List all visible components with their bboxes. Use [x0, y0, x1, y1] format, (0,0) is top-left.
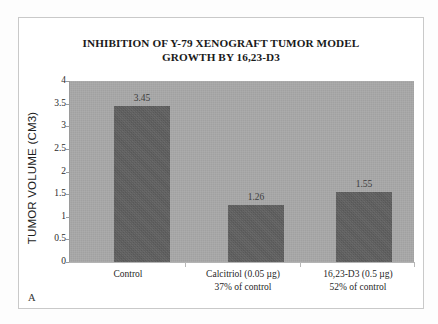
- y-tick-label-3.5: 3.5: [44, 98, 66, 108]
- y-axis-title: TUMOR VOLUME (CM3): [26, 83, 38, 273]
- x-category-sublabel-calcitriol: 37% of control: [186, 281, 300, 294]
- x-category-sublabel-16-23-d3: 52% of control: [301, 281, 415, 294]
- y-tick-label-1.5: 1.5: [44, 188, 66, 198]
- x-category-name-16-23-d3: 16,23-D3 (0.5 µg): [323, 269, 392, 279]
- chart-title-line-1: INHIBITION OF Y-79 XENOGRAFT TUMOR MODEL: [30, 36, 412, 50]
- plot-area: 3.45 1.26 1.55: [70, 81, 414, 262]
- bar-value-16-23-d3: 1.55: [336, 179, 392, 189]
- x-tick-mark-2: [300, 262, 301, 267]
- y-tick-label-2: 2: [44, 166, 66, 176]
- y-tick-label-4: 4: [44, 75, 66, 85]
- x-category-label-control: Control: [72, 268, 184, 281]
- figure: INHIBITION OF Y-79 XENOGRAFT TUMOR MODEL…: [0, 0, 438, 324]
- y-tick-label-3: 3: [44, 120, 66, 130]
- x-tick-mark-3: [414, 262, 415, 267]
- x-category-name-calcitriol: Calcitriol (0.05 µg): [206, 269, 280, 279]
- y-tick-label-0: 0: [44, 256, 66, 266]
- bar-texture: [228, 205, 284, 262]
- bar-texture: [114, 106, 170, 262]
- bar-16-23-d3: [336, 192, 392, 262]
- x-tick-mark-1: [185, 262, 186, 267]
- bar-value-calcitriol: 1.26: [228, 192, 284, 202]
- y-tick-label-0.5: 0.5: [44, 233, 66, 243]
- x-category-name-control: Control: [113, 269, 142, 279]
- chart-title: INHIBITION OF Y-79 XENOGRAFT TUMOR MODEL…: [30, 36, 412, 64]
- bar-value-control: 3.45: [114, 93, 170, 103]
- y-tick-label-1: 1: [44, 211, 66, 221]
- x-axis-line: [69, 262, 415, 263]
- bar-control: [114, 106, 170, 262]
- bar-texture: [336, 192, 392, 262]
- y-tick-label-2.5: 2.5: [44, 143, 66, 153]
- chart-title-line-2: GROWTH BY 16,23-D3: [30, 50, 412, 64]
- panel-letter: A: [28, 292, 36, 303]
- x-category-label-16-23-d3: 16,23-D3 (0.5 µg) 52% of control: [301, 268, 415, 293]
- y-axis-tick-labels: 4 3.5 3 2.5 2 1.5 1 0.5 0: [42, 81, 66, 262]
- bar-calcitriol: [228, 205, 284, 262]
- x-category-label-calcitriol: Calcitriol (0.05 µg) 37% of control: [186, 268, 300, 293]
